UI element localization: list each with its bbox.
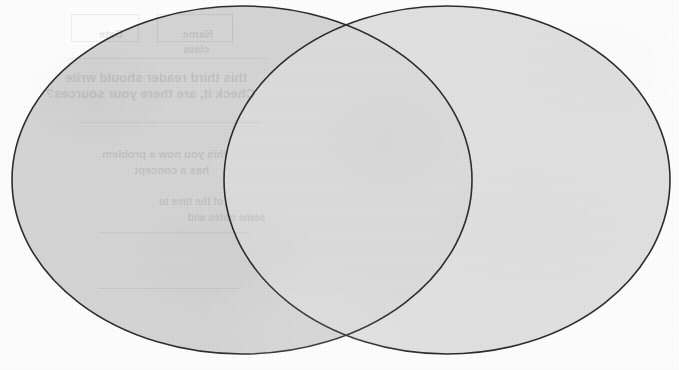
scanned-worksheet-page: this third reader should writeCheck it, … [0, 0, 679, 370]
venn-diagram [0, 0, 679, 370]
